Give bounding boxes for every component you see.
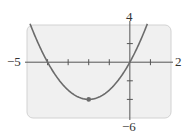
- y-min-label: −6: [122, 120, 136, 133]
- vertex-point: [86, 97, 91, 102]
- y-max-label: 4: [126, 10, 133, 23]
- plot-area: [27, 25, 171, 118]
- graph-window: [0, 0, 187, 133]
- x-max-label: 2: [175, 55, 182, 68]
- x-min-label: −5: [7, 55, 21, 68]
